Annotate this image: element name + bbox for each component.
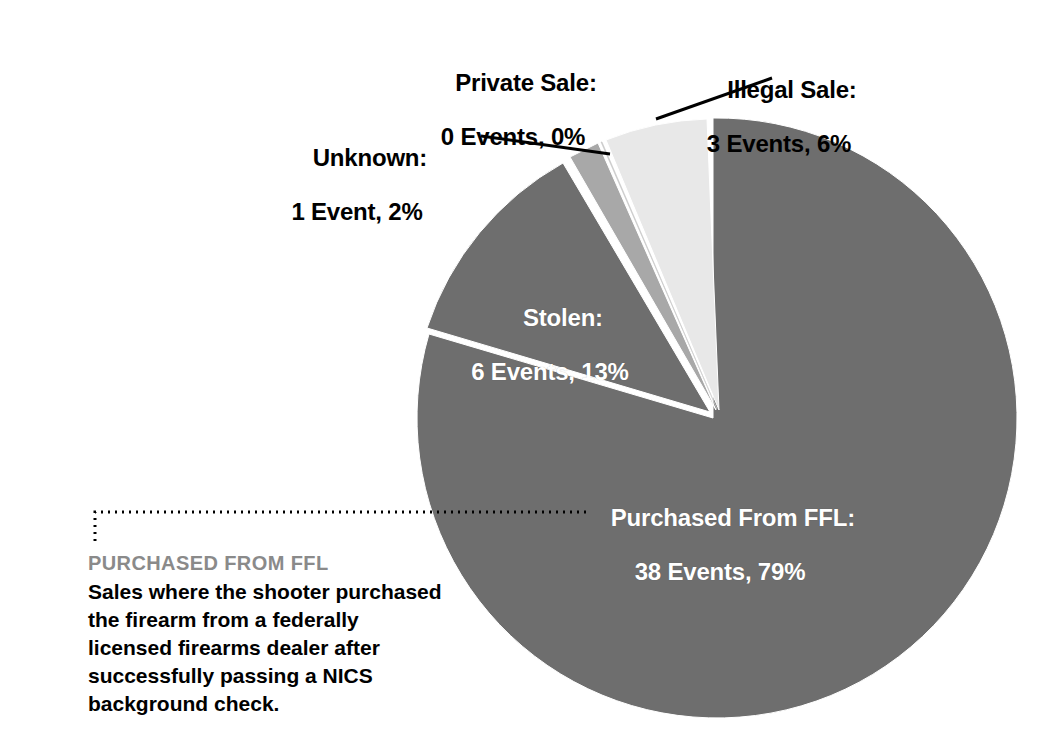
callout-purchased-from-ffl: Purchased From FFL: 38 Events, 79% <box>570 478 870 639</box>
callout-unknown: Unknown: 1 Event, 2% <box>232 118 482 279</box>
callout-unknown-line2: 1 Event, 2% <box>232 199 482 226</box>
callout-stolen: Stolen: 6 Events, 13% <box>425 278 675 439</box>
callout-purchased-from-ffl-line2: 38 Events, 79% <box>570 559 870 586</box>
callout-unknown-line1: Unknown: <box>313 144 427 171</box>
chart-page: Private Sale: 0 Events, 0% Illegal Sale:… <box>0 0 1047 751</box>
callout-stolen-line2: 6 Events, 13% <box>425 359 675 386</box>
annotation-block: PURCHASED FROM FFL Sales where the shoot… <box>88 551 488 718</box>
callout-illegal-sale: Illegal Sale: 3 Events, 6% <box>659 50 899 211</box>
callout-stolen-line1: Stolen: <box>523 304 603 331</box>
callout-illegal-sale-line2: 3 Events, 6% <box>659 131 899 158</box>
callout-purchased-from-ffl-line1: Purchased From FFL: <box>611 504 855 531</box>
callout-illegal-sale-line1: Illegal Sale: <box>727 76 856 103</box>
callout-private-sale-line1: Private Sale: <box>455 69 596 96</box>
annotation-heading: PURCHASED FROM FFL <box>88 551 488 575</box>
annotation-body: Sales where the shooter purchased the fi… <box>88 578 448 718</box>
